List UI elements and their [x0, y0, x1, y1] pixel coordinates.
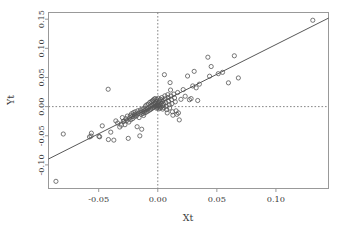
data-point: [135, 125, 139, 129]
data-point: [179, 97, 183, 101]
y-axis-ticks-group: -0.10-0.050.000.050.100.15: [37, 10, 49, 175]
y-axis-title: Yt: [5, 95, 16, 106]
data-point: [106, 87, 110, 91]
data-point: [196, 98, 200, 102]
x-tick-label: 0.10: [267, 194, 285, 204]
x-axis-ticks-group: -0.050.000.050.10: [88, 189, 285, 204]
data-point: [162, 73, 166, 77]
data-point: [54, 179, 58, 183]
y-tick-label: 0.15: [37, 10, 47, 28]
data-point: [232, 54, 236, 58]
data-point: [168, 81, 172, 85]
y-tick-label: 0.05: [37, 68, 47, 86]
data-point: [177, 118, 181, 122]
data-point: [112, 138, 116, 142]
data-points-group: [54, 18, 315, 183]
data-point: [140, 127, 144, 131]
data-point: [311, 18, 315, 22]
chart-canvas: -0.050.000.050.10 -0.10-0.050.000.050.10…: [0, 0, 345, 227]
y-tick-label: -0.10: [37, 154, 47, 175]
scatter-plot-figure: -0.050.000.050.10 -0.10-0.050.000.050.10…: [0, 0, 345, 227]
y-tick-label: -0.05: [37, 125, 47, 146]
data-point: [194, 86, 198, 90]
data-point: [106, 137, 110, 141]
data-point: [100, 124, 104, 128]
x-tick-label: -0.05: [88, 194, 109, 204]
data-point: [206, 55, 210, 59]
data-point: [185, 74, 189, 78]
x-tick-label: 0.00: [149, 194, 167, 204]
data-point: [236, 76, 240, 80]
data-point: [138, 134, 142, 138]
data-point: [209, 64, 213, 68]
data-point: [226, 81, 230, 85]
data-point: [192, 69, 196, 73]
data-point: [126, 136, 130, 140]
x-axis-title: Xt: [183, 212, 194, 223]
data-point: [109, 130, 113, 134]
data-point: [89, 131, 93, 135]
y-tick-label: 0.10: [37, 39, 47, 57]
x-tick-label: 0.05: [208, 194, 226, 204]
data-point: [61, 132, 65, 136]
y-tick-label: 0.00: [37, 98, 47, 116]
data-point: [183, 94, 187, 98]
data-point: [168, 88, 172, 92]
